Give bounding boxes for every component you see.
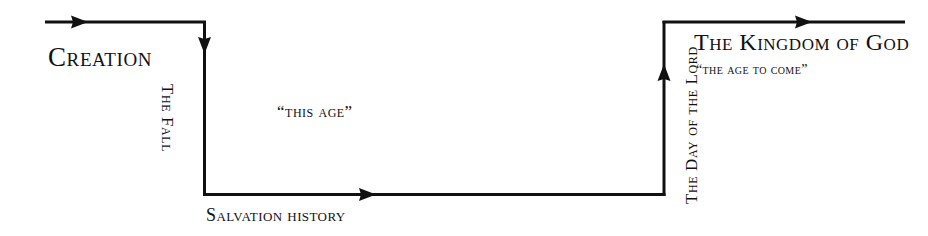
day-of-the-lord-arrowhead-icon [658,64,671,81]
creation-arrowhead-icon [71,16,88,29]
kingdom-of-god-segment [663,16,906,29]
creation-segment [45,16,206,29]
fall-arrowhead-icon [198,37,211,54]
label-the-fall: The Fall [159,84,176,152]
label-creation: Creation [48,44,152,71]
salvation-history-segment [203,188,666,201]
label-salvation-history: Salvation history [206,206,346,224]
timeline-diagram: Creation The Fall “this age” Salvation h… [0,0,928,236]
kingdom-of-god-arrowhead-icon [795,16,812,29]
fall-segment [198,21,211,196]
salvation-history-arrowhead-icon [359,188,376,201]
day-of-the-lord-segment [658,21,671,196]
label-this-age: “this age” [277,103,353,120]
label-kingdom-of-god: The Kingdom of God [694,30,909,54]
label-age-to-come: “the age to come” [696,63,808,77]
